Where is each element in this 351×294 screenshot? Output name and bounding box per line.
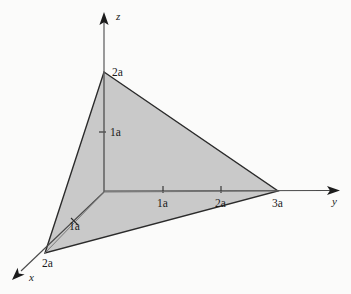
x-intercept-label: 2a: [42, 257, 53, 269]
z-intercept-label: 2a: [112, 66, 123, 78]
z-tick-1a-label: 1a: [110, 126, 121, 138]
shaded-plane-triangle: [45, 72, 278, 253]
figure-canvas: z y x 2a 3a 2a 1a 1a 2a 1a: [0, 0, 351, 294]
x-axis-label: x: [28, 271, 34, 283]
x-tick-1a-label: 1a: [69, 220, 80, 232]
coordinate-plane-diagram: z y x 2a 3a 2a 1a 1a 2a 1a: [0, 0, 351, 294]
z-axis-label: z: [115, 10, 121, 22]
y-tick-2a-label: 2a: [215, 197, 226, 209]
y-intercept-label: 3a: [272, 197, 283, 209]
y-tick-1a-label: 1a: [157, 197, 168, 209]
y-axis-label: y: [331, 195, 337, 207]
